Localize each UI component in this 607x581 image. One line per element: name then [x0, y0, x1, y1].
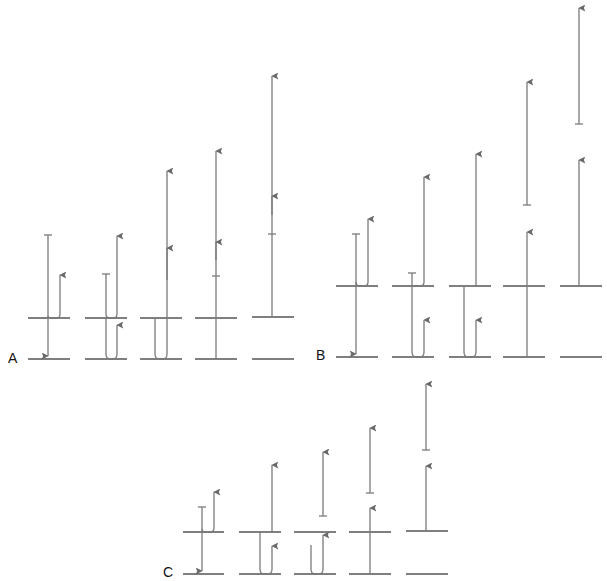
arrowhead-up-icon: [202, 492, 214, 532]
panel-c-column-5: [422, 384, 430, 531]
panel-c-column-2: [260, 465, 272, 574]
arrowhead-up-icon: [155, 171, 167, 359]
panel-a-column-1: [44, 235, 60, 356]
arrowhead-up-icon: [311, 535, 323, 574]
panel-a-column-4: [212, 151, 220, 359]
arrowhead-up-icon: [412, 286, 424, 357]
panel-a: [28, 76, 294, 359]
panel-a-column-2: [102, 236, 117, 359]
arrowhead-up-icon: [412, 177, 424, 286]
arrowhead-up-icon: [464, 286, 476, 357]
panel-c-column-3: [311, 452, 327, 574]
arrowhead-up-icon: [106, 318, 117, 359]
panel-a-column-3: [155, 171, 167, 359]
panel-b-column-5: [575, 8, 583, 286]
panel-b-column-2: [408, 177, 424, 357]
panel-b: [336, 8, 602, 357]
panel-c-levels: [183, 531, 448, 574]
arrowhead-up-icon: [356, 219, 368, 286]
arrowhead-up-icon: [106, 236, 117, 318]
energy-level-diagram: [0, 0, 607, 581]
panel-b-column-4: [523, 82, 531, 357]
arrowhead-up-icon: [48, 275, 60, 318]
panel-a-levels: [28, 317, 294, 359]
panel-c: [183, 384, 448, 574]
panel-a-column-5: [268, 76, 276, 317]
panel-c-column-4: [366, 428, 374, 574]
panel-b-column-3: [464, 154, 476, 357]
arrowhead-up-icon: [260, 532, 272, 574]
panel-b-levels: [336, 286, 602, 357]
